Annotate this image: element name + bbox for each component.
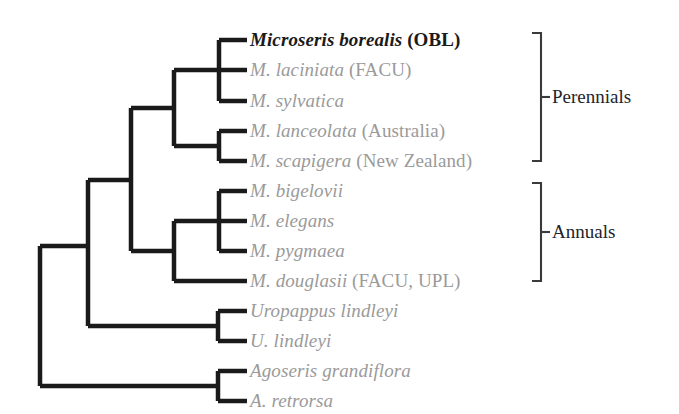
taxon-name-m-sylvatica: M. sylvatica: [250, 90, 344, 111]
taxon-label-u-lindleyi: U. lindleyi: [250, 328, 331, 354]
taxon-annotation-m-douglasii: (FACU, UPL): [347, 270, 460, 291]
taxon-name-m-laciniata: M. laciniata: [250, 59, 344, 80]
bracket-perennials: [532, 33, 541, 161]
taxon-name-m-scapigera: M. scapigera: [250, 150, 351, 171]
taxon-name-microseris-borealis: Microseris borealis: [250, 29, 402, 50]
taxon-name-m-elegans: M. elegans: [250, 210, 334, 231]
taxon-label-m-pygmaea: M. pygmaea: [250, 238, 345, 264]
taxon-label-m-lanceolata: M. lanceolata (Australia): [250, 118, 445, 144]
taxon-name-m-bigelovii: M. bigelovii: [250, 180, 343, 201]
taxon-name-m-douglasii: M. douglasii: [250, 270, 347, 291]
bracket-annuals: [532, 183, 541, 281]
group-label-annuals: Annuals: [552, 219, 615, 245]
taxon-label-uropappus-lindleyi: Uropappus lindleyi: [250, 298, 398, 324]
taxon-label-agoseris-grandiflora: Agoseris grandiflora: [250, 358, 411, 384]
taxon-name-m-pygmaea: M. pygmaea: [250, 240, 345, 261]
taxon-label-a-retrorsa: A. retrorsa: [250, 388, 333, 414]
taxon-label-m-elegans: M. elegans: [250, 208, 334, 234]
taxon-label-microseris-borealis: Microseris borealis (OBL): [250, 27, 460, 53]
group-label-perennials: Perennials: [552, 84, 631, 110]
taxon-label-m-douglasii: M. douglasii (FACU, UPL): [250, 268, 461, 294]
taxon-annotation-m-laciniata: (FACU): [344, 59, 411, 80]
taxon-name-m-lanceolata: M. lanceolata: [250, 120, 357, 141]
taxon-label-m-laciniata: M. laciniata (FACU): [250, 57, 411, 83]
taxon-label-m-bigelovii: M. bigelovii: [250, 178, 343, 204]
taxon-annotation-microseris-borealis: (OBL): [402, 29, 460, 50]
taxon-name-agoseris-grandiflora: Agoseris grandiflora: [250, 360, 411, 381]
taxon-name-u-lindleyi: U. lindleyi: [250, 330, 331, 351]
taxon-annotation-m-lanceolata: (Australia): [357, 120, 445, 141]
cladogram-figure: Microseris borealis (OBL) M. laciniata (…: [0, 0, 679, 414]
taxon-annotation-m-scapigera: (New Zealand): [351, 150, 472, 171]
taxon-label-m-sylvatica: M. sylvatica: [250, 88, 344, 114]
taxon-name-a-retrorsa: A. retrorsa: [250, 390, 333, 411]
taxon-name-uropappus-lindleyi: Uropappus lindleyi: [250, 300, 398, 321]
taxon-label-m-scapigera: M. scapigera (New Zealand): [250, 148, 472, 174]
